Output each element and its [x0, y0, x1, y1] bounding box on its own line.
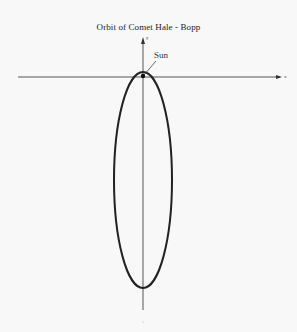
sun-leader-line: [144, 61, 156, 75]
x-axis-label: x: [284, 74, 287, 79]
orbit-diagram: [0, 0, 297, 332]
sun-icon: [141, 74, 145, 78]
sun-label: Sun: [154, 51, 168, 60]
scan-artifact: [142, 321, 144, 323]
y-axis-arrow-icon: [141, 37, 145, 44]
y-axis-label: y: [146, 35, 149, 40]
diagram-canvas: Orbit of Comet Hale - Bopp Sun y x: [0, 0, 297, 332]
x-axis-arrow-icon: [276, 75, 282, 79]
